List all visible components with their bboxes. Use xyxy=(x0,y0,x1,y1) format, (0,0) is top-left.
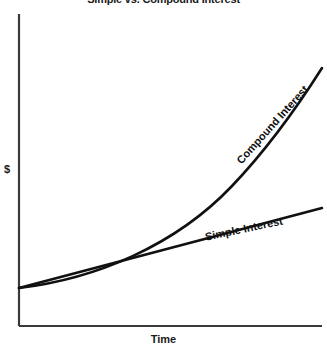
x-axis-label: Time xyxy=(0,333,327,345)
plot-area xyxy=(0,0,327,349)
compound-interest-curve xyxy=(19,68,322,288)
y-axis-label: $ xyxy=(4,163,10,175)
chart-container: Simple vs. Compound Interest $ Time Comp… xyxy=(0,0,327,349)
